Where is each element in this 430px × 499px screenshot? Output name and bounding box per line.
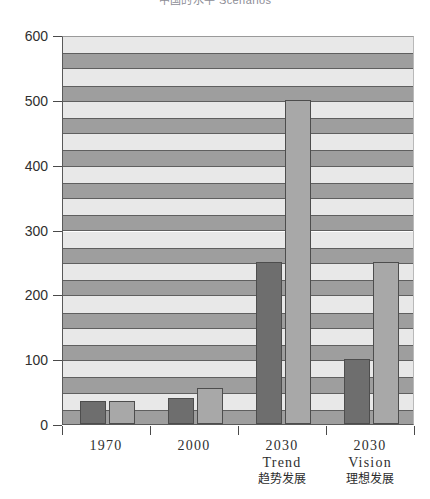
x-category-label: 1970 [62,437,150,454]
x-category-label: 2030Trend趋势发展 [238,437,326,487]
y-tick-label: 100 [0,352,48,368]
x-label-scenario-en: Trend [238,454,326,471]
x-tick [238,426,239,435]
y-tick [53,360,62,361]
x-tick [414,426,415,435]
y-tick [53,425,62,426]
x-tick [62,426,63,435]
y-axis: 0100200300400500600 [0,0,430,499]
y-tick-label: 400 [0,158,48,174]
bar-chart: 0100200300400500600 197020002030Trend趋势发… [0,0,430,499]
x-label-year: 2030 [326,437,414,454]
x-label-scenario-zh: 趋势发展 [238,471,326,487]
y-tick [53,295,62,296]
y-tick-label: 0 [0,417,48,433]
x-label-year: 1970 [62,437,150,454]
x-label-scenario-zh: 理想发展 [326,471,414,487]
x-tick [150,426,151,435]
y-tick-label: 200 [0,287,48,303]
x-label-year: 2000 [150,437,238,454]
y-tick [53,231,62,232]
y-tick-label: 600 [0,28,48,44]
x-category-label: 2000 [150,437,238,454]
x-tick [326,426,327,435]
x-label-year: 2030 [238,437,326,454]
y-tick-label: 300 [0,223,48,239]
x-label-scenario-en: Vision [326,454,414,471]
y-tick [53,101,62,102]
x-category-label: 2030Vision理想发展 [326,437,414,487]
y-tick [53,36,62,37]
y-tick-label: 500 [0,93,48,109]
y-tick [53,166,62,167]
